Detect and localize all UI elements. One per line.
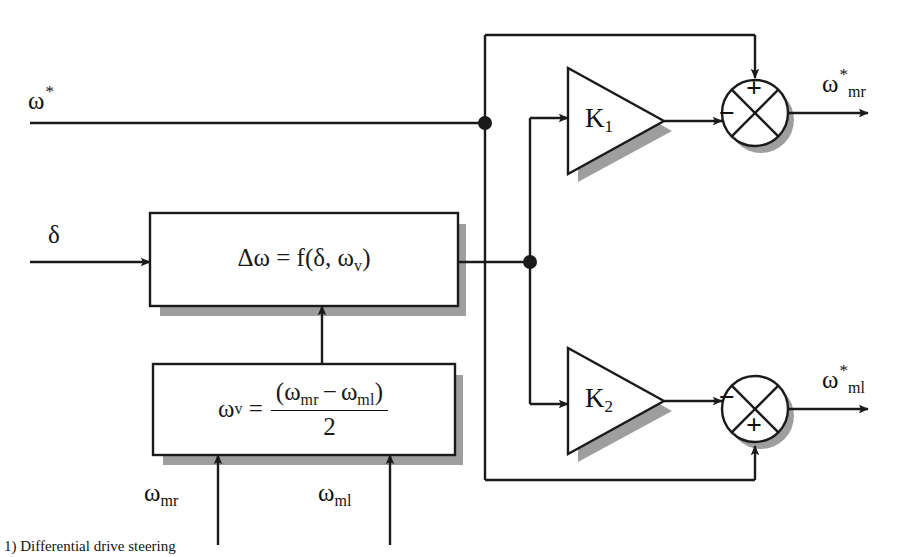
junction-dots [478, 116, 537, 269]
omega-v-num-left-base: ω [284, 378, 300, 405]
top-summer-minus-sign: − [719, 99, 735, 127]
omega-v-numerator: (ωmr−ωml) [271, 378, 388, 411]
omega-v-num-left-subscript: mr [301, 391, 319, 408]
delta-omega-fn-open: f( [297, 244, 314, 271]
omega-mr-ref-subscript: mr [848, 83, 866, 100]
label-omega-ref: ω* [28, 83, 54, 113]
omega-mr-base: ω [144, 479, 160, 506]
omega-v-minus: − [319, 378, 341, 405]
omega-v-num-open: ( [276, 378, 284, 405]
label-omega-mr: ωmr [144, 480, 179, 509]
delta-omega-comma: , [325, 244, 331, 271]
delta-omega-equation: Δω = f(δ, ωv) [150, 213, 458, 306]
delta-base: δ [48, 221, 60, 248]
delta-omega-arg2-base: ω [338, 244, 354, 271]
delta-omega-equals: = [276, 244, 290, 271]
label-omega-mr-ref: ω*mr [822, 66, 866, 100]
omega-mr-ref-base: ω [822, 70, 838, 97]
k1-base: K [585, 103, 605, 133]
label-k2-gain: K2 [585, 385, 613, 415]
omega-v-lhs-base: ω [218, 395, 234, 423]
delta-omega-lhs: Δω [237, 244, 270, 271]
bottom-summer-plus-sign: + [746, 411, 762, 439]
delta-omega-arg1: δ [313, 244, 325, 271]
omega-v-num-close: ) [375, 378, 383, 405]
delta-omega-arg2-subscript: v [354, 257, 362, 274]
figure-caption: 1) Differential drive steering [4, 538, 176, 555]
label-omega-ml-ref: ω*ml [822, 362, 865, 396]
omega-v-lhs-subscript: v [234, 400, 242, 418]
label-delta: δ [48, 222, 60, 247]
omega-ml-ref-base: ω [822, 366, 838, 393]
diagram-canvas: ω* δ ωmr ωml ω*mr ω*ml K1 K2 + − + − Δω … [0, 0, 904, 557]
omega-v-num-right-base: ω [341, 378, 357, 405]
label-omega-ml: ωml [318, 480, 352, 509]
top-summer-plus-sign: + [746, 74, 762, 102]
omega-v-equals: = [243, 395, 269, 423]
omega-v-num-right-subscript: ml [357, 391, 374, 408]
omega-v-fraction: (ωmr−ωml) 2 [271, 378, 388, 441]
omega-ref-base: ω [28, 87, 44, 114]
delta-omega-fn-close: ) [362, 244, 370, 271]
k2-base: K [585, 383, 605, 413]
omega-ml-base: ω [318, 479, 334, 506]
k2-subscript: 2 [605, 397, 614, 416]
omega-ml-subscript: ml [334, 492, 351, 509]
omega-ml-ref-subscript: ml [848, 379, 865, 396]
omega-v-equation: ωv = (ωmr−ωml) 2 [153, 364, 455, 455]
omega-ref-superscript: * [44, 82, 54, 101]
omega-mr-ref-superscript: * [838, 65, 848, 84]
omega-ml-ref-superscript: * [838, 361, 848, 380]
omega-mr-subscript: mr [160, 492, 178, 509]
bottom-summer-minus-sign: − [719, 383, 735, 411]
k1-subscript: 1 [605, 117, 614, 136]
omega-v-denominator: 2 [271, 411, 388, 441]
label-k1-gain: K1 [585, 105, 613, 135]
delta-omega-junction-dot [523, 255, 537, 269]
omega-ref-junction-dot [478, 116, 492, 130]
